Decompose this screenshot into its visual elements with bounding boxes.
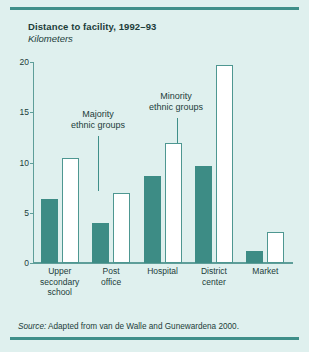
y-tick-mark: [30, 62, 33, 63]
figure-subtitle: Kilometers: [28, 34, 156, 45]
title-block: Distance to facility, 1992–93 Kilometers: [28, 22, 156, 45]
leader-line-majority: [98, 136, 99, 191]
bar-majority: [195, 166, 212, 263]
x-tick-label: Uppersecondaryschool: [34, 266, 85, 298]
y-tick-label: 15: [20, 107, 29, 117]
x-tick-label: Districtcenter: [188, 266, 239, 298]
y-tick-mark: [30, 263, 33, 264]
source-text: Adapted from van de Walle and Gunewarden…: [46, 322, 239, 331]
bottom-rule: [10, 337, 299, 340]
leader-line-minority: [177, 118, 178, 143]
bar-group: [34, 62, 85, 263]
x-tick-label: Postoffice: [85, 266, 136, 298]
x-tick-label: Market: [240, 266, 291, 298]
y-tick-mark: [30, 213, 33, 214]
figure-title: Distance to facility, 1992–93: [28, 22, 156, 33]
y-tick-label: 0: [24, 258, 29, 268]
x-axis-labels: UppersecondaryschoolPostofficeHospitalDi…: [34, 266, 291, 298]
bar-majority: [246, 251, 263, 263]
y-tick-label: 20: [20, 57, 29, 67]
bar-minority: [113, 193, 130, 263]
figure-panel: Distance to facility, 1992–93 Kilometers…: [0, 0, 309, 352]
bar-minority: [267, 232, 284, 263]
bar-minority: [165, 143, 182, 263]
source-label: Source:: [18, 322, 46, 331]
bar-group: [85, 62, 136, 263]
x-tick-label: Hospital: [137, 266, 188, 298]
bar-majority: [41, 199, 58, 263]
top-rule: [10, 7, 299, 10]
bar-group: [240, 62, 291, 263]
y-tick-label: 5: [24, 208, 29, 218]
bar-majority: [144, 176, 161, 263]
annotation-majority: Majority ethnic groups: [56, 109, 140, 131]
y-tick-mark: [30, 163, 33, 164]
source-note: Source: Adapted from van de Walle and Gu…: [18, 322, 239, 331]
y-tick-mark: [30, 112, 33, 113]
bar-majority: [92, 223, 109, 263]
bar-minority: [62, 158, 79, 263]
bar-minority: [216, 65, 233, 263]
y-tick-label: 10: [20, 158, 29, 168]
annotation-minority: Minority ethnic groups: [136, 91, 216, 113]
